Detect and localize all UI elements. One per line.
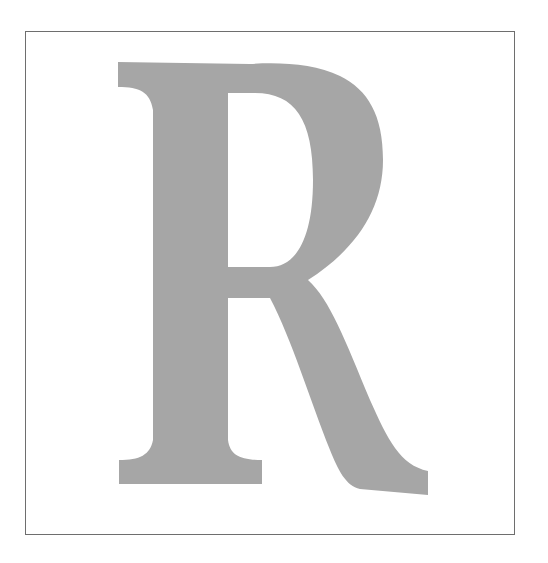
letter-r-shape	[118, 62, 428, 495]
letter-r-glyph	[0, 0, 548, 563]
